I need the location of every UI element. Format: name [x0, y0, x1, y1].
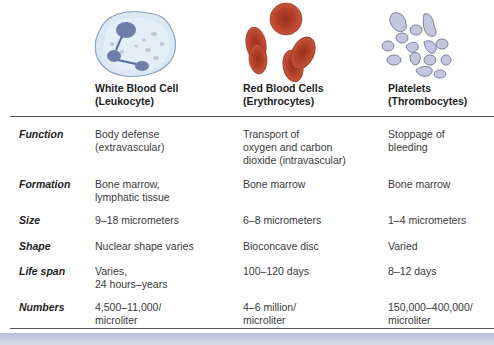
- table-cell: Bone marrow: [243, 178, 305, 191]
- column-title: White Blood Cell: [95, 82, 178, 95]
- table-cell: Varies, 24 hours–years: [95, 265, 167, 291]
- table-cell: 9–18 micrometers: [95, 214, 179, 227]
- table-cell: 100–120 days: [243, 265, 309, 278]
- row-label: Function: [19, 128, 63, 141]
- row-label: Size: [19, 214, 40, 227]
- table-cell: Transport of oxygen and carbon dioxide (…: [243, 128, 346, 167]
- table-cell: 6–8 micrometers: [243, 214, 321, 227]
- column-header-white-blood-cell: White Blood Cell (Leukocyte): [95, 82, 178, 108]
- table-cell: Nuclear shape varies: [95, 240, 194, 253]
- column-title: Red Blood Cells: [243, 82, 324, 95]
- white-blood-cell-illustration: [92, 8, 180, 80]
- row-label: Formation: [19, 178, 70, 191]
- footer-divider: [10, 328, 494, 329]
- table-cell: Varied: [388, 240, 418, 253]
- table-cell: Bone marrow: [388, 178, 450, 191]
- column-subtitle: (Erythrocytes): [243, 95, 324, 108]
- table-cell: 150,000–400,000/ microliter: [388, 301, 473, 327]
- column-header-red-blood-cells: Red Blood Cells (Erythrocytes): [243, 82, 324, 108]
- red-blood-cells-illustration: [238, 2, 324, 84]
- table-cell: Body defense (extravascular): [95, 128, 164, 154]
- table-cell: 8–12 days: [388, 265, 436, 278]
- row-label: Numbers: [19, 301, 65, 314]
- table-cell: 4–6 million/ microliter: [243, 301, 296, 327]
- column-subtitle: (Thrombocytes): [388, 95, 467, 108]
- header-divider: [10, 116, 494, 117]
- column-subtitle: (Leukocyte): [95, 95, 178, 108]
- table-cell: Bone marrow, lymphatic tissue: [95, 178, 170, 204]
- column-header-platelets: Platelets (Thrombocytes): [388, 82, 467, 108]
- row-label: Life span: [19, 265, 65, 278]
- row-label: Shape: [19, 240, 51, 253]
- column-title: Platelets: [388, 82, 467, 95]
- table-cell: Stoppage of bleeding: [388, 128, 445, 154]
- platelets-illustration: [380, 8, 470, 80]
- bottom-color-bar: [0, 333, 494, 345]
- table-cell: Bioconcave disc: [243, 240, 319, 253]
- table-cell: 1–4 micrometers: [388, 214, 466, 227]
- table-cell: 4,500–11,000/ microliter: [95, 301, 161, 327]
